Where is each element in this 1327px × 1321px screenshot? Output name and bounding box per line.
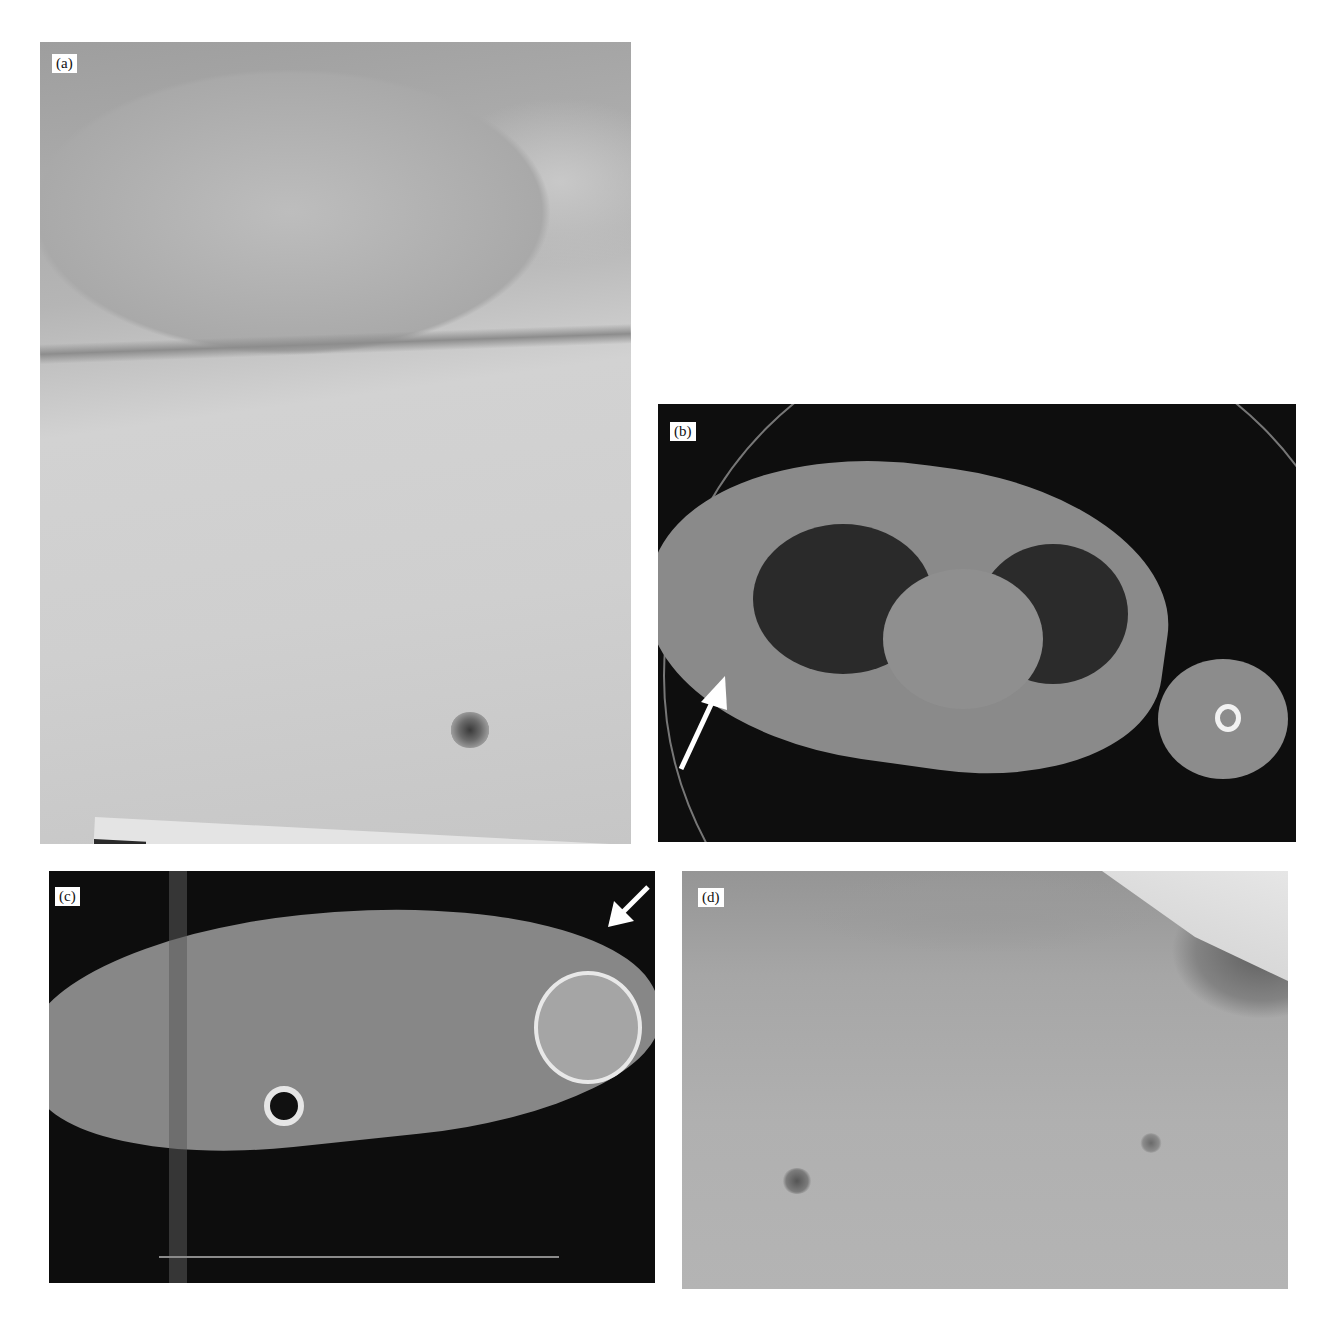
nipple-left (1140, 1133, 1162, 1153)
heart (883, 569, 1043, 709)
panel-label-a: (a) (52, 54, 77, 73)
nipple (450, 712, 490, 748)
panel-b-ct: (b) (658, 404, 1296, 842)
panel-label-b: (b) (670, 422, 696, 441)
panel-label-d: (d) (698, 888, 724, 907)
humerus (1215, 704, 1241, 732)
panel-d-photo: (d) (682, 871, 1288, 1289)
vertebra (264, 1086, 304, 1126)
arrow-icon (673, 674, 733, 774)
ct-table (159, 1256, 559, 1258)
panel-a-photo: (a) (40, 42, 631, 844)
humeral-head (534, 971, 642, 1084)
nipple-right (782, 1168, 812, 1194)
skin-fold (40, 324, 631, 365)
arrow-icon (604, 881, 654, 931)
panel-c-ct: (c) (49, 871, 655, 1283)
scale-ruler (93, 817, 631, 844)
background (1102, 871, 1288, 981)
artifact-stripe (169, 871, 187, 1283)
panel-label-c: (c) (55, 887, 80, 906)
